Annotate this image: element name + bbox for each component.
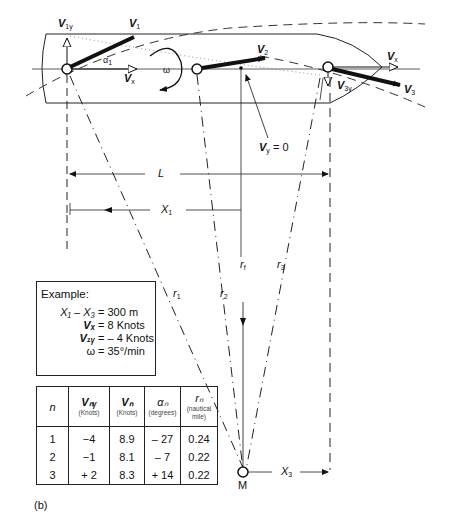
- M-label: M: [238, 480, 247, 491]
- point-3: [323, 62, 333, 72]
- vx-left-label: Vx: [124, 73, 135, 85]
- point-2: [192, 64, 202, 74]
- X1-arrowhead: [104, 207, 112, 213]
- example-title: Example:: [41, 288, 155, 300]
- point3-aux-line: [320, 78, 323, 100]
- vy-zero-pointer: [246, 75, 268, 138]
- r3-label: r3: [277, 259, 285, 271]
- v3y-label: V3y: [337, 80, 352, 92]
- header-rn: rₙ(nautical mile): [181, 387, 218, 427]
- table-header-row: n Vₙᵧ(Knots) Vₙ(Knots) αₙ(degrees) rₙ(na…: [37, 387, 218, 427]
- table-row: 2 −1 8.1 – 7 0.22: [37, 448, 218, 466]
- example-box: Example: X₁ – X₃= 300 m Vₓ= 8 Knots V₁ᵧ=…: [36, 281, 156, 376]
- results-table: n Vₙᵧ(Knots) Vₙ(Knots) αₙ(degrees) rₙ(na…: [36, 386, 218, 485]
- table-row: 1 −4 8.9 – 27 0.24: [37, 427, 218, 449]
- vx-right-label: Vx: [387, 51, 398, 63]
- vy-zero-label: Vy = 0: [259, 142, 289, 154]
- center-M: [238, 467, 248, 477]
- v3-label: V3: [404, 84, 415, 96]
- table-row: 3 + 2 8.3 + 14 0.22: [37, 466, 218, 485]
- v2-label: V2: [257, 44, 268, 56]
- v1y-label: V1y: [58, 18, 73, 30]
- omega-label: ω: [163, 66, 170, 75]
- L-label: L: [158, 168, 164, 179]
- v1-label: V1: [129, 18, 140, 30]
- example-row: V₁ᵧ= – 4 Knots: [41, 332, 155, 345]
- example-row: X₁ – X₃= 300 m: [41, 306, 155, 319]
- r2-label: r2: [220, 288, 228, 300]
- header-vn: Vₙ(Knots): [110, 387, 145, 427]
- figure-caption: (b): [34, 499, 47, 511]
- header-alpha: αₙ(degrees): [145, 387, 181, 427]
- example-row: Vₓ= 8 Knots: [41, 319, 155, 332]
- header-vny: Vₙᵧ(Knots): [69, 387, 110, 427]
- rf-label: rf: [240, 259, 246, 271]
- X3-label: X3: [281, 466, 292, 478]
- r1-label: r1: [173, 288, 181, 300]
- header-n: n: [37, 387, 69, 427]
- X1-label: X1: [161, 204, 172, 216]
- example-row: ω= 35°/min: [41, 345, 155, 358]
- alpha1-label: α1: [103, 56, 112, 66]
